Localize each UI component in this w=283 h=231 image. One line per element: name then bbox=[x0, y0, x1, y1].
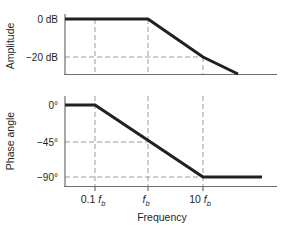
xtick-label-10fb: 10 fb bbox=[189, 193, 211, 208]
phase-axis-title: Phase angle bbox=[4, 112, 16, 171]
phase-panel: 0° −45° −90° Phase angle bbox=[4, 96, 277, 191]
amplitude-ytick-label-minus20db: −20 dB bbox=[26, 52, 58, 63]
phase-ytick-label-minus45deg: −45° bbox=[37, 137, 58, 148]
xtick-label-0.1fb: 0.1 fb bbox=[81, 193, 106, 208]
phase-ytick-label-minus90deg: −90° bbox=[37, 172, 58, 183]
xtick-label-0.1fb-prefix: 0.1 bbox=[81, 193, 99, 205]
bode-plot-svg: 0 dB −20 dB Amplitude 0° −4 bbox=[0, 0, 283, 231]
xtick-label-fb: fb bbox=[142, 193, 149, 208]
xtick-label-fb-subscript: b bbox=[145, 199, 149, 208]
magnitude-curve bbox=[65, 19, 238, 74]
xtick-label-0.1fb-subscript: b bbox=[101, 199, 105, 208]
amplitude-axis-title: Amplitude bbox=[4, 23, 16, 70]
x-axis-labels: 0.1 fb fb 10 fb Frequency bbox=[81, 193, 211, 223]
phase-ytick-label-0deg: 0° bbox=[48, 100, 58, 111]
xtick-label-10fb-subscript: b bbox=[207, 199, 211, 208]
xtick-label-10fb-prefix: 10 bbox=[189, 193, 204, 205]
bode-plot-figure: 0 dB −20 dB Amplitude 0° −4 bbox=[0, 0, 283, 231]
x-axis-title: Frequency bbox=[137, 211, 187, 223]
amplitude-ytick-label-0db: 0 dB bbox=[37, 14, 58, 25]
amplitude-panel: 0 dB −20 dB Amplitude bbox=[4, 14, 277, 76]
